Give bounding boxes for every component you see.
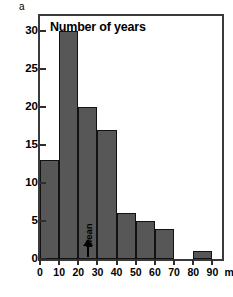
y-axis-tick: 30 <box>0 31 46 32</box>
x-axis-tick-mark <box>154 259 156 265</box>
y-axis-tick-mark <box>40 144 46 146</box>
plot-area: Number of years Mean <box>40 16 222 259</box>
x-axis-tick-mark <box>192 259 194 265</box>
y-axis-tick-mark <box>40 106 46 108</box>
y-axis-tick: 20 <box>0 107 46 108</box>
x-axis-tick-mark <box>211 259 213 265</box>
bar <box>97 130 116 259</box>
y-axis-tick-label: 15 <box>25 138 38 151</box>
x-axis-tick-mark <box>135 259 137 265</box>
y-axis-tick-mark <box>40 220 46 222</box>
bar <box>193 251 212 259</box>
x-axis-tick-mark <box>77 259 79 265</box>
bar <box>59 31 78 259</box>
bar <box>136 221 155 259</box>
x-axis-tick-label: 90 <box>198 266 226 278</box>
y-axis-tick: 10 <box>0 183 46 184</box>
bar <box>117 213 136 259</box>
panel-label: a <box>19 2 25 12</box>
y-axis-tick-label: 30 <box>25 24 38 37</box>
bar <box>155 229 174 259</box>
y-axis-tick-mark <box>40 30 46 32</box>
x-axis-unit-label: mm/a <box>224 266 233 278</box>
x-axis-tick-mark <box>58 259 60 265</box>
x-axis-tick-mark <box>96 259 98 265</box>
y-axis-tick: 5 <box>0 221 46 222</box>
y-axis-tick-label: 20 <box>25 100 38 113</box>
bar <box>40 160 59 259</box>
y-axis-tick: 15 <box>0 145 46 146</box>
mean-annotation: Mean <box>81 183 95 257</box>
mean-arrow-shaft <box>87 243 89 257</box>
bar-series <box>40 16 222 259</box>
y-axis-tick-label: 0 <box>32 252 38 265</box>
y-axis-tick-label: 25 <box>25 62 38 75</box>
y-axis-tick: 25 <box>0 69 46 70</box>
y-axis-tick-mark <box>40 68 46 70</box>
y-axis-tick-mark <box>40 182 46 184</box>
x-axis-tick-mark <box>39 259 41 265</box>
y-axis-tick-label: 5 <box>32 214 38 227</box>
x-axis-tick-mark <box>116 259 118 265</box>
x-axis-tick-mark <box>173 259 175 265</box>
y-axis-tick-label: 10 <box>25 176 38 189</box>
